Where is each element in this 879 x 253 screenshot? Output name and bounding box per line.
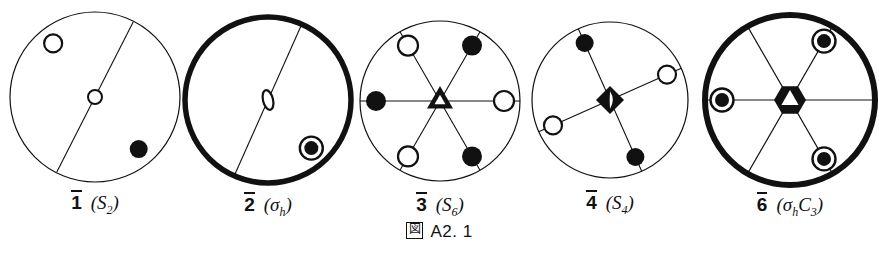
site-4-open [398,146,418,166]
site-2-filled-ringed [711,89,734,112]
label-sigma-h: 2(σh) [178,192,358,218]
label-symbol-s2: (S2) [91,192,119,213]
site-3-open [544,116,562,134]
site-1-filled-ringed [300,137,323,160]
site-5-filled [462,146,482,166]
paren-close: ) [628,192,634,213]
symbol-main: S [612,192,622,213]
paren-close: ) [113,192,119,213]
diagram-4-bar-S4 [516,6,704,194]
figure-caption: 図A2. 1 [0,222,879,242]
site-3-filled [366,91,386,111]
diagram-3-bar-S6 [344,5,536,197]
label-sigma-h-c3: 6(σhC3) [700,192,879,218]
symbol-main: σ [783,194,792,215]
label-symbol-sigma-h: (σh) [264,194,292,215]
label-s4: 4(S4) [520,190,700,216]
center-symbol-filled-square-open-lens [596,86,624,114]
site-1-filled [462,36,482,56]
site-1-open [658,66,676,84]
caption-text: A2. 1 [430,222,472,241]
site-2-filled [576,34,594,52]
symbol-main: S [442,194,452,215]
diagram-5-bar-sigma-h-C3 [689,0,879,201]
label-number-sigma-h-c3: 6 [757,192,768,214]
paren-close: ) [817,194,823,215]
label-s2: 1(S2) [5,190,185,216]
site-1-filled-ringed [813,30,836,53]
label-number-sigma-h: 2 [244,192,255,214]
zu-kanji-icon: 図 [406,222,423,239]
label-s6: 3(S6) [350,192,530,218]
center-symbol-open-lens [261,89,276,111]
label-symbol-s4: (S4) [606,192,634,213]
site-2-filled [130,140,148,158]
site-3-filled-ringed [813,147,836,170]
center-symbol-triangle-open-center [427,86,453,109]
site-2-open [398,36,418,56]
label-number-s2: 1 [71,190,82,212]
label-symbol-sigma-h-c3: (σhC3) [776,194,823,215]
label-symbol-s6: (S6) [436,194,464,215]
paren-close: ) [285,194,291,215]
center-symbol-filled-hexagon-open-triangle [774,86,806,114]
label-number-s4: 4 [586,190,597,212]
symbol-main-2: C [798,194,811,215]
site-1-open [44,34,62,52]
diagram-1-bar-S2 [0,0,196,198]
label-number-s6: 3 [416,192,427,214]
symbol-main: S [97,192,107,213]
site-4-filled [626,148,644,166]
center-symbol-open-circle [88,90,102,104]
diagram-2-bar-sigma-h [169,1,367,199]
paren-close: ) [458,194,464,215]
figure-a2-1: 1(S2)2(σh)3(S6)4(S4)6(σhC3) 図A2. 1 [0,0,879,253]
site-6-open [494,91,514,111]
